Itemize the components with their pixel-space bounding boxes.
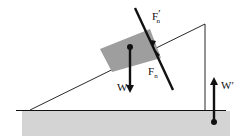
floor-surface bbox=[22, 111, 230, 136]
label-normal-on-wedge: F′n bbox=[152, 7, 161, 25]
label-weight-block: W bbox=[117, 81, 128, 93]
wedge-reaction-arrow-head bbox=[210, 77, 218, 85]
label-weight-wedge-reaction: W′ bbox=[221, 79, 234, 91]
force-diagram: F′n Fn W W′ bbox=[0, 0, 247, 140]
diagram-canvas: F′n Fn W W′ bbox=[0, 0, 247, 140]
label-normal-on-block: Fn bbox=[148, 65, 158, 80]
